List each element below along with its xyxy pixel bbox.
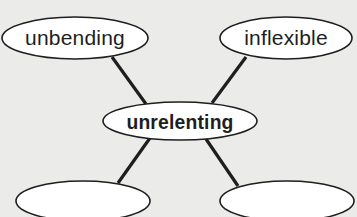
connector-bottom-right: [206, 139, 238, 186]
node-bottom-left: [16, 181, 150, 217]
word-web-diagram: unbending inflexible unrelenting: [0, 0, 357, 217]
node-bottom-right: [220, 181, 354, 217]
node-label-top-left: unbending: [25, 27, 125, 48]
connector-bottom-left: [118, 138, 150, 183]
center-label: unrelenting: [126, 111, 233, 132]
connector-top-left: [112, 57, 146, 104]
connector-top-right: [212, 57, 246, 103]
node-label-top-right: inflexible: [244, 27, 328, 48]
